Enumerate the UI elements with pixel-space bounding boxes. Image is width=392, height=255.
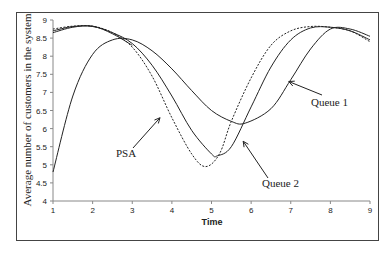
x-tick-label: 2 (90, 206, 95, 215)
x-tick-label: 9 (368, 206, 373, 215)
annotations: Queue 1 Queue 2 PSA (116, 81, 348, 189)
x-tick-label: 8 (328, 206, 333, 215)
series-unlabeled (53, 26, 132, 46)
axes: 44.555.566.577.588.59123456789 (36, 16, 373, 215)
y-tick-label: 7.5 (36, 70, 48, 79)
y-tick-label: 6 (43, 125, 48, 134)
annotation-arrow (133, 118, 160, 148)
x-tick-label: 4 (170, 206, 175, 215)
annotation-queue2: Queue 2 (262, 177, 299, 189)
y-tick-label: 7 (43, 88, 48, 97)
y-tick-label: 6.5 (36, 107, 48, 116)
annotation-psa: PSA (116, 147, 136, 159)
annotation-arrow (289, 82, 322, 95)
y-tick-label: 4 (43, 197, 48, 206)
x-axis-label: Time (202, 217, 223, 227)
x-tick-label: 1 (51, 206, 56, 215)
x-tick-label: 6 (249, 206, 254, 215)
annotation-arrow (243, 141, 268, 178)
line-chart: 44.555.566.577.588.59123456789 Queue 1 Q… (0, 0, 392, 255)
y-tick-label: 9 (43, 16, 48, 25)
x-tick-label: 3 (130, 206, 135, 215)
annotation-queue1: Queue 1 (311, 96, 348, 108)
y-tick-label: 5 (43, 161, 48, 170)
y-tick-label: 8.5 (36, 34, 48, 43)
x-tick-label: 5 (209, 206, 214, 215)
y-tick-label: 5.5 (36, 143, 48, 152)
x-tick-label: 7 (289, 206, 294, 215)
y-tick-label: 8 (43, 52, 48, 61)
y-tick-label: 4.5 (36, 179, 48, 188)
y-axis-label: Average number of customers in the syste… (21, 13, 33, 206)
